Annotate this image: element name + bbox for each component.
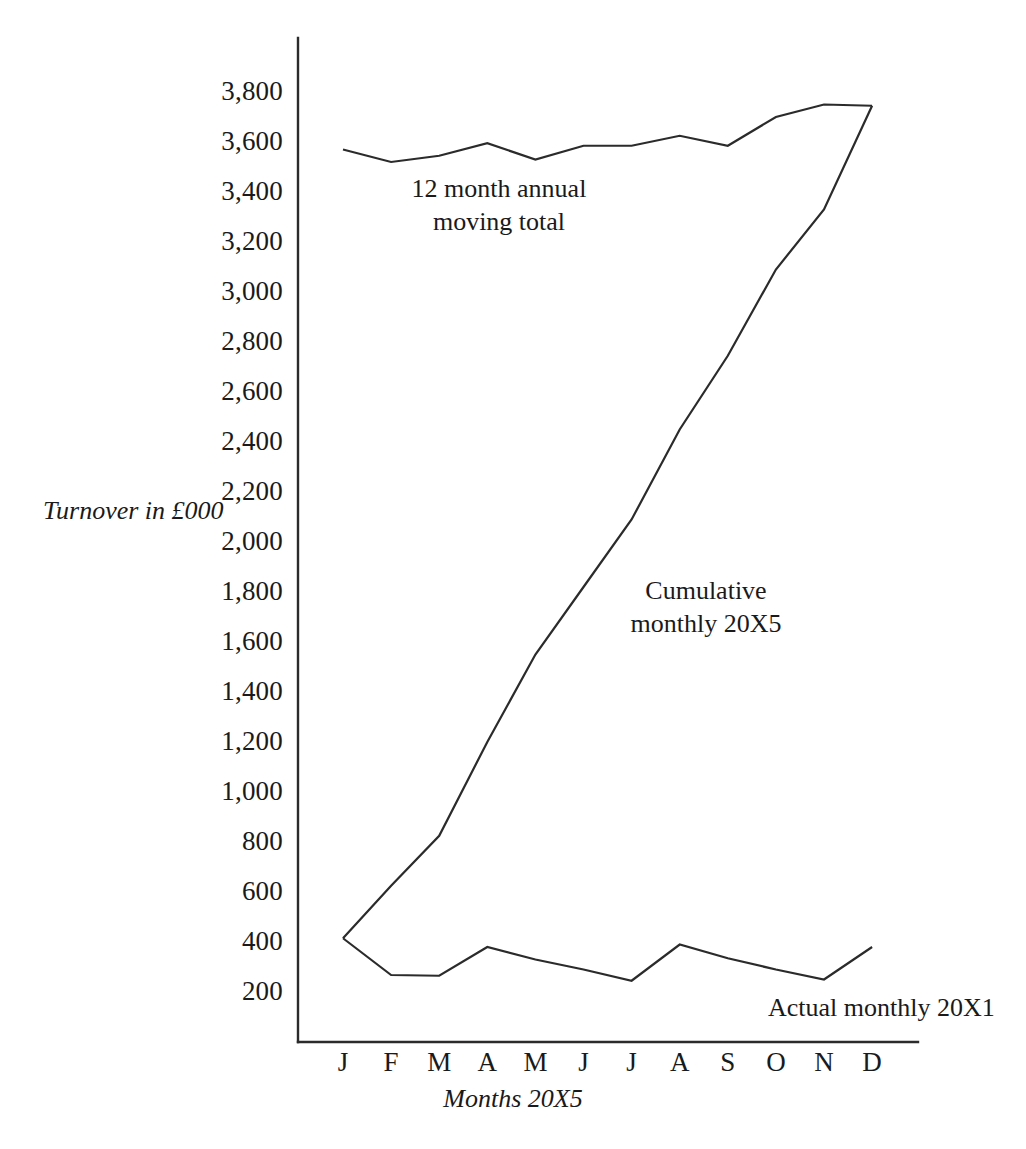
data-series-group <box>343 105 872 981</box>
series-line-2 <box>343 938 872 981</box>
series-line-0 <box>343 105 872 163</box>
axes <box>298 38 918 1042</box>
chart-page: 3,8003,6003,4003,2003,0002,8002,6002,400… <box>0 0 1026 1149</box>
chart-plot-area <box>0 0 1026 1149</box>
series-line-1 <box>343 106 872 939</box>
